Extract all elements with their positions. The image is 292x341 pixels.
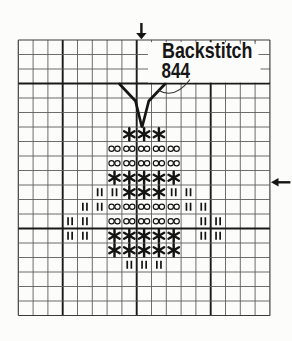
double-circle-stitch-icon [139,161,150,166]
double-circle-stitch-icon [124,161,135,166]
asterisk-stitch-icon [154,244,164,256]
double-bar-stitch-icon [172,188,176,196]
asterisk-stitch-icon [124,186,134,198]
asterisk-stitch-icon [169,244,179,256]
asterisk-stitch-icon [139,186,149,198]
double-bar-stitch-icon [157,261,161,269]
asterisk-stitch-icon [109,172,119,184]
asterisk-stitch-icon [139,230,149,242]
double-circle-stitch-icon [139,204,150,209]
asterisk-stitch-icon [139,244,149,256]
double-bar-stitch-icon [83,217,87,225]
center-column-arrow-icon [136,23,146,39]
double-circle-stitch-icon [153,146,164,151]
double-circle-stitch-icon [139,219,150,224]
asterisk-stitch-icon [109,244,119,256]
double-circle-stitch-icon [109,204,120,209]
asterisk-stitch-icon [154,230,164,242]
double-bar-stitch-icon [98,203,102,211]
double-circle-stitch-icon [109,146,120,151]
pattern-chart-svg: Backstitch 844 [0,0,292,341]
asterisk-stitch-icon [124,128,134,140]
cross-stitch-pattern-chart: Backstitch 844 [0,0,292,341]
double-circle-stitch-icon [153,219,164,224]
double-bar-stitch-icon [68,217,72,225]
double-bar-stitch-icon [83,232,87,240]
double-bar-stitch-icon [112,188,116,196]
double-circle-stitch-icon [124,146,135,151]
asterisk-stitch-icon [154,172,164,184]
double-circle-stitch-icon [153,204,164,209]
backstitch-color-code: 844 [162,59,191,83]
asterisk-stitch-icon [154,186,164,198]
double-bar-stitch-icon [186,188,190,196]
asterisk-stitch-icon [124,172,134,184]
asterisk-stitch-icon [124,244,134,256]
center-row-arrow-icon [271,178,290,186]
double-circle-stitch-icon [109,161,120,166]
double-bar-stitch-icon [201,232,205,240]
asterisk-stitch-icon [109,230,119,242]
asterisk-stitch-icon [139,172,149,184]
double-circle-stitch-icon [139,146,150,151]
double-circle-stitch-icon [124,204,135,209]
asterisk-stitch-icon [169,172,179,184]
double-bar-stitch-icon [186,203,190,211]
double-circle-stitch-icon [168,161,179,166]
double-circle-stitch-icon [124,219,135,224]
double-bar-stitch-icon [201,217,205,225]
double-bar-stitch-icon [216,217,220,225]
double-circle-stitch-icon [168,146,179,151]
asterisk-stitch-icon [139,128,149,140]
double-bar-stitch-icon [142,261,146,269]
double-circle-stitch-icon [168,204,179,209]
asterisk-stitch-icon [169,230,179,242]
double-circle-stitch-icon [168,219,179,224]
double-bar-stitch-icon [83,203,87,211]
double-bar-stitch-icon [127,261,131,269]
double-circle-stitch-icon [153,161,164,166]
double-bar-stitch-icon [98,188,102,196]
double-bar-stitch-icon [216,232,220,240]
double-bar-stitch-icon [68,232,72,240]
asterisk-stitch-icon [124,230,134,242]
double-bar-stitch-icon [201,203,205,211]
asterisk-stitch-icon [154,128,164,140]
double-circle-stitch-icon [109,219,120,224]
stitch-symbols [68,128,220,269]
